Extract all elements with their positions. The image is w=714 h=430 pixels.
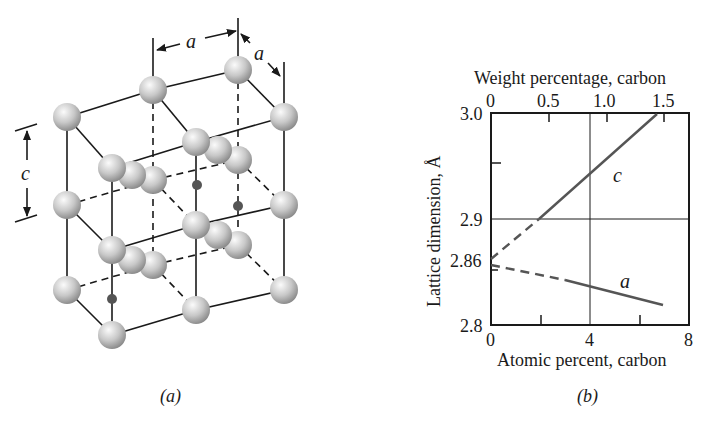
iron-atom xyxy=(270,103,298,131)
series-label-c: c xyxy=(613,164,622,186)
dimension-arrow-a-top xyxy=(157,44,180,50)
dimension-arrow-a-side xyxy=(268,63,280,76)
caption-b: (b) xyxy=(577,386,598,407)
caption-a: (a) xyxy=(160,386,181,407)
panel-b-chart: c a Weight percentage, carbon 0 0.5 1.0 … xyxy=(424,68,693,407)
cell-edges-solid xyxy=(67,70,284,335)
series-a-dashed xyxy=(491,265,565,280)
y-tick-label: 2.86 xyxy=(450,251,482,271)
iron-atom xyxy=(98,321,126,349)
iron-atom xyxy=(53,191,81,219)
top-tick-label: 1.5 xyxy=(652,91,675,111)
y-axis-title: Lattice dimension, Å xyxy=(424,156,444,307)
series-a-solid xyxy=(565,280,663,305)
iron-atom xyxy=(270,191,298,219)
label-a-top: a xyxy=(186,30,196,52)
label-c: c xyxy=(21,162,30,184)
bottom-tick-label: 4 xyxy=(585,330,594,350)
dimension-arrow-a-side xyxy=(241,34,250,43)
top-tick-label: 0.5 xyxy=(537,91,560,111)
bottom-axis-title: Atomic percent, carbon xyxy=(497,350,666,370)
iron-atom xyxy=(224,56,252,84)
y-tick-label: 2.8 xyxy=(460,316,483,336)
carbon-atom xyxy=(192,180,202,190)
bottom-tick-label: 8 xyxy=(684,330,693,350)
iron-atom xyxy=(98,154,126,182)
y-tick-label: 3.0 xyxy=(460,104,483,124)
series-c-dashed xyxy=(491,219,539,259)
dimension-tick-c xyxy=(15,124,37,131)
iron-atom xyxy=(270,276,298,304)
top-tick-label: 0 xyxy=(486,91,495,111)
iron-atom xyxy=(53,276,81,304)
series-label-a: a xyxy=(620,270,630,292)
iron-atom xyxy=(182,211,210,239)
iron-atom xyxy=(182,128,210,156)
dimension-arrow-a-top xyxy=(205,31,236,38)
top-tick-label: 1.0 xyxy=(593,91,616,111)
iron-atoms xyxy=(53,56,298,349)
carbon-atom xyxy=(107,294,117,304)
carbon-atom xyxy=(233,201,243,211)
dimension-tick-c xyxy=(15,215,37,222)
series-c-solid xyxy=(539,114,657,219)
iron-atom xyxy=(139,76,167,104)
iron-atom xyxy=(98,236,126,264)
y-tick-label: 2.9 xyxy=(460,210,483,230)
iron-atom xyxy=(182,296,210,324)
iron-atom xyxy=(53,103,81,131)
label-a-side: a xyxy=(254,42,264,64)
top-axis-title: Weight percentage, carbon xyxy=(474,68,666,88)
top-axis-ticks xyxy=(549,113,664,122)
bottom-tick-label: 0 xyxy=(486,330,495,350)
